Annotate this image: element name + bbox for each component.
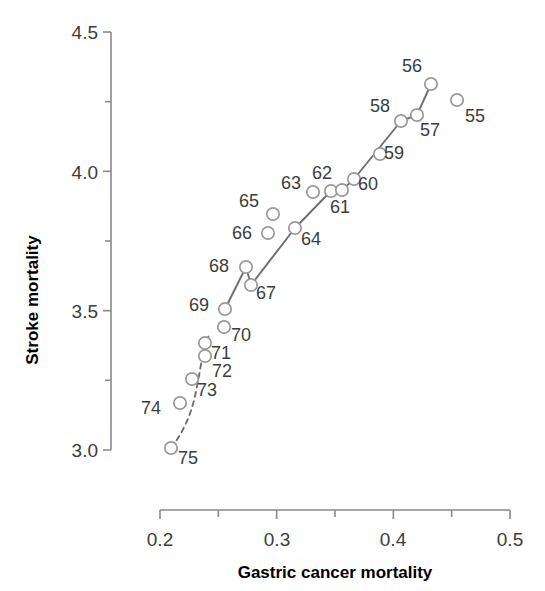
data-point-marker[interactable] [307,186,319,198]
x-axis-tick-labels: 0.20.30.40.5 [147,529,523,550]
data-point-label: 58 [370,96,390,116]
data-point-marker[interactable] [199,337,211,349]
data-point-label: 66 [232,223,252,243]
data-point-label: 62 [312,163,332,183]
x-axis-ticks [160,510,510,519]
y-tick-label: 3.0 [72,440,98,461]
data-point-marker[interactable] [199,350,211,362]
data-point-label: 72 [212,361,232,381]
data-point-label: 68 [209,256,229,276]
x-tick-label: 0.3 [264,529,290,550]
x-axis-title: Gastric cancer mortality [238,563,433,582]
data-point-label: 64 [301,229,321,249]
data-point-marker[interactable] [395,115,407,127]
data-point-label: 59 [384,143,404,163]
scatter-plot: 4.54.03.53.0 Stroke mortality 0.20.30.40… [0,0,545,591]
data-point-marker[interactable] [451,94,463,106]
data-point-marker[interactable] [289,222,301,234]
data-point-label: 56 [402,56,422,76]
data-point-label: 57 [420,120,440,140]
data-point-label: 63 [281,173,301,193]
figure-container: 4.54.03.53.0 Stroke mortality 0.20.30.40… [0,0,545,591]
y-tick-label: 3.5 [72,301,98,322]
data-point-marker[interactable] [425,78,437,90]
data-point-marker[interactable] [267,208,279,220]
data-point-label: 73 [197,380,217,400]
y-axis: 4.54.03.53.0 Stroke mortality [23,22,111,461]
data-point-label: 55 [465,106,485,126]
data-point-label: 75 [178,448,198,468]
data-point-label: 67 [256,283,276,303]
x-tick-label: 0.5 [497,529,523,550]
data-point-marker[interactable] [174,397,186,409]
data-point-label: 65 [239,191,259,211]
y-axis-ticks [103,32,111,450]
y-tick-label: 4.0 [72,162,98,183]
x-tick-label: 0.4 [380,529,407,550]
data-point-label: 71 [211,343,231,363]
x-axis: 0.20.30.40.5 Gastric cancer mortality [147,510,523,582]
x-tick-label: 0.2 [147,529,173,550]
data-point-label: 61 [330,197,350,217]
data-point-label: 60 [358,174,378,194]
y-axis-tick-labels: 4.54.03.53.0 [72,22,98,461]
data-point-label: 74 [141,398,161,418]
data-point-marker[interactable] [219,303,231,315]
data-point-label: 70 [231,325,251,345]
data-point-marker[interactable] [165,442,177,454]
y-axis-title: Stroke mortality [23,235,42,365]
data-point-marker[interactable] [218,321,230,333]
data-point-marker[interactable] [240,261,252,273]
data-point-label: 69 [189,295,209,315]
y-tick-label: 4.5 [72,22,98,43]
data-point-marker[interactable] [336,184,348,196]
data-point-marker[interactable] [262,227,274,239]
